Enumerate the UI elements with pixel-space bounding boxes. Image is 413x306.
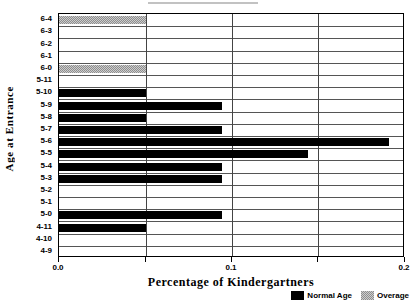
y-axis-tick-label: 5-8 xyxy=(18,113,52,121)
row-separator-line xyxy=(59,124,403,125)
x-axis-tick-mark xyxy=(58,257,59,262)
y-axis-tick-label: 5-4 xyxy=(18,162,52,170)
y-axis-title-text: Age at Entrance xyxy=(3,86,15,171)
y-axis-tick-label: 5-6 xyxy=(18,137,52,145)
row-separator-line xyxy=(59,136,403,137)
y-axis-tick-label: 6-2 xyxy=(18,40,52,48)
legend-label: Normal Age xyxy=(307,291,352,300)
bar-normal-5-7 xyxy=(59,126,222,134)
y-axis-tick-label: 5-2 xyxy=(18,186,52,194)
y-axis-tick-label: 5-5 xyxy=(18,149,52,157)
row-separator-line xyxy=(59,75,403,76)
legend-label: Overage xyxy=(377,291,409,300)
legend-swatch-overage xyxy=(361,291,374,300)
row-separator-line xyxy=(59,221,403,222)
bar-normal-5-8 xyxy=(59,114,146,122)
legend-swatch-normal xyxy=(291,291,304,300)
bar-overage-6-4 xyxy=(59,16,146,24)
y-axis-title: Age at Entrance xyxy=(0,0,18,258)
bar-normal-5-4 xyxy=(59,163,222,171)
x-axis-tick-mark xyxy=(317,257,318,262)
y-axis-tick-label: 4-11 xyxy=(18,223,52,231)
bar-normal-5-3 xyxy=(59,175,222,183)
vertical-gridline xyxy=(318,14,319,256)
row-separator-line xyxy=(59,26,403,27)
legend-entry: Overage xyxy=(361,291,409,300)
row-separator-line xyxy=(59,87,403,88)
bar-normal-4-11 xyxy=(59,224,146,232)
bar-normal-5-9 xyxy=(59,102,222,110)
bar-normal-5-10 xyxy=(59,89,146,97)
y-axis-tick-label: 6-0 xyxy=(18,64,52,72)
x-axis-tick-mark xyxy=(404,257,405,262)
y-axis-tick-labels: 6-46-36-26-16-05-115-105-95-85-75-65-55-… xyxy=(18,13,52,257)
row-separator-line xyxy=(59,63,403,64)
bar-normal-5-0 xyxy=(59,211,222,219)
row-separator-line xyxy=(59,38,403,39)
row-separator-line xyxy=(59,160,403,161)
row-separator-line xyxy=(59,197,403,198)
y-axis-tick-label: 5-7 xyxy=(18,125,52,133)
y-axis-tick-label: 6-1 xyxy=(18,52,52,60)
bar-normal-5-6 xyxy=(59,138,389,146)
top-edge-artifact xyxy=(148,2,258,4)
chart-legend: Normal AgeOverage xyxy=(291,291,409,300)
x-axis-title: Percentage of Kindergartners xyxy=(58,275,404,290)
row-separator-line xyxy=(59,99,403,100)
y-axis-tick-label: 5-0 xyxy=(18,210,52,218)
y-axis-tick-label: 4-9 xyxy=(18,247,52,255)
y-axis-tick-label: 6-4 xyxy=(18,15,52,23)
y-axis-tick-label: 4-10 xyxy=(18,235,52,243)
plot-area xyxy=(58,13,404,257)
y-axis-tick-label: 5-3 xyxy=(18,174,52,182)
y-axis-tick-label: 5-11 xyxy=(18,76,52,84)
bar-overage-6-0 xyxy=(59,65,146,73)
row-separator-line xyxy=(59,185,403,186)
row-separator-line xyxy=(59,246,403,247)
y-axis-tick-label: 5-10 xyxy=(18,88,52,96)
x-axis-tick-mark xyxy=(145,257,146,262)
bar-normal-5-5 xyxy=(59,150,308,158)
x-axis-tick-mark xyxy=(231,257,232,262)
x-axis-tick-label: 0.2 xyxy=(384,263,413,272)
row-separator-line xyxy=(59,209,403,210)
row-separator-line xyxy=(59,148,403,149)
row-separator-line xyxy=(59,51,403,52)
x-axis-tick-label: 0.1 xyxy=(211,263,251,272)
row-separator-line xyxy=(59,234,403,235)
y-axis-tick-label: 6-3 xyxy=(18,27,52,35)
y-axis-tick-label: 5-9 xyxy=(18,101,52,109)
legend-entry: Normal Age xyxy=(291,291,352,300)
y-axis-tick-label: 5-1 xyxy=(18,198,52,206)
vertical-gridline xyxy=(232,14,233,256)
vertical-gridline xyxy=(146,14,147,256)
x-axis-tick-label: 0.0 xyxy=(38,263,78,272)
